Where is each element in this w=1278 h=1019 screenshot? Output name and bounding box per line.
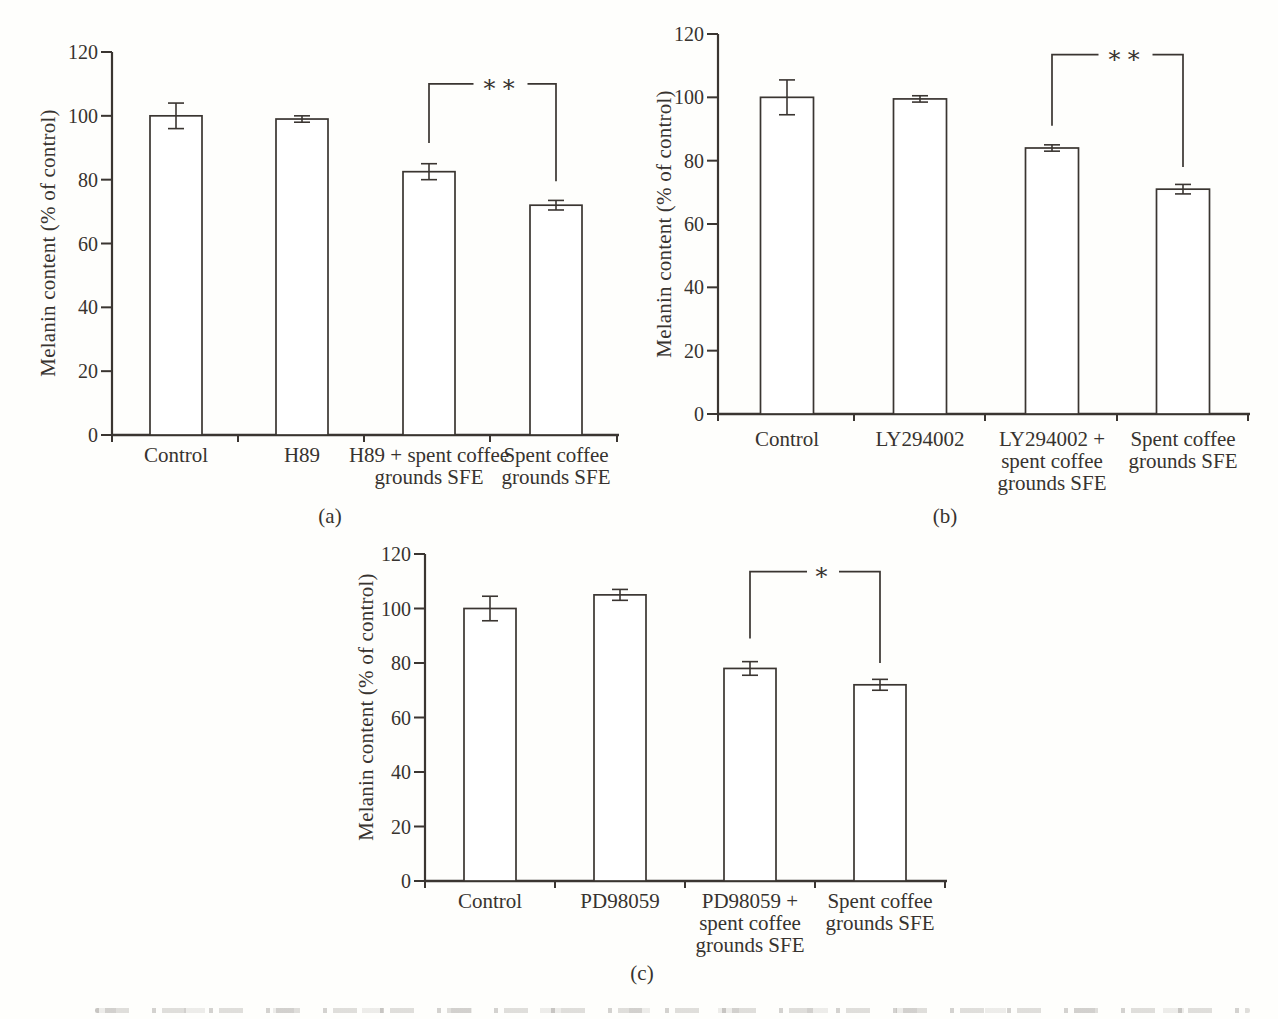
category-label: Control — [144, 443, 208, 467]
y-axis-title-panel-b: Melanin content (% of control) — [651, 9, 677, 439]
chart-plot-area: 020406080100120ControlPD98059PD98059 +sp… — [320, 535, 970, 1019]
chart-plot-area: 020406080100120ControlLY294002LY294002 +… — [650, 0, 1278, 540]
significance-bracket — [750, 572, 807, 639]
y-tick-label: 100 — [381, 598, 411, 620]
category-label: PD98059 — [580, 889, 659, 913]
bar — [854, 685, 906, 881]
y-tick-label: 100 — [674, 86, 704, 108]
y-tick-label: 20 — [78, 360, 98, 382]
significance-stars: ∗ — [813, 558, 832, 586]
significance-bracket — [429, 84, 474, 143]
category-label: PD98059 +spent coffeegrounds SFE — [695, 889, 804, 957]
bar — [894, 99, 947, 414]
y-tick-label: 120 — [381, 543, 411, 565]
y-tick-label: 40 — [391, 761, 411, 783]
bar — [1026, 148, 1079, 414]
panel-label-b: (b) — [933, 504, 958, 529]
y-axis-title-panel-c: Melanin content (% of control) — [353, 492, 379, 922]
y-tick-label: 80 — [78, 169, 98, 191]
panel-a-chart: 020406080100120ControlH89H89 + spent cof… — [0, 0, 650, 540]
bar — [464, 609, 516, 882]
significance-bracket — [839, 572, 880, 663]
bar — [761, 97, 814, 414]
significance-stars: ∗∗ — [1106, 41, 1145, 69]
y-tick-label: 60 — [684, 213, 704, 235]
category-label: LY294002 — [876, 427, 965, 451]
bar — [1157, 189, 1210, 414]
bar — [594, 595, 646, 881]
category-label: H89 — [284, 443, 320, 467]
y-tick-label: 120 — [68, 41, 98, 63]
figure-canvas: 020406080100120ControlH89H89 + spent cof… — [0, 0, 1278, 1019]
y-tick-label: 80 — [391, 652, 411, 674]
panel-c-chart: 020406080100120ControlPD98059PD98059 +sp… — [320, 535, 970, 1019]
y-tick-label: 40 — [684, 276, 704, 298]
significance-stars: ∗∗ — [481, 70, 520, 98]
category-label: Spent coffeegrounds SFE — [501, 443, 610, 489]
y-tick-label: 40 — [78, 296, 98, 318]
y-tick-label: 20 — [684, 340, 704, 362]
significance-bracket — [528, 84, 557, 181]
y-tick-label: 0 — [88, 424, 98, 446]
panel-label-c: (c) — [630, 961, 653, 986]
bar — [276, 119, 328, 435]
category-label: Control — [755, 427, 819, 451]
panel-b-chart: 020406080100120ControlLY294002LY294002 +… — [650, 0, 1278, 540]
category-label: Spent coffeegrounds SFE — [1128, 427, 1237, 473]
y-tick-label: 60 — [391, 707, 411, 729]
significance-bracket — [1153, 55, 1184, 167]
y-tick-label: 120 — [674, 23, 704, 45]
bar — [724, 668, 776, 881]
category-label: LY294002 +spent coffeegrounds SFE — [997, 427, 1106, 495]
panel-label-a: (a) — [318, 504, 341, 529]
y-axis-title-panel-a: Melanin content (% of control) — [35, 28, 61, 458]
chart-plot-area: 020406080100120ControlH89H89 + spent cof… — [0, 0, 650, 540]
y-tick-label: 0 — [694, 403, 704, 425]
clipped-caption-strip — [95, 1008, 1250, 1013]
y-tick-label: 20 — [391, 816, 411, 838]
category-label: Spent coffeegrounds SFE — [825, 889, 934, 935]
y-tick-label: 60 — [78, 233, 98, 255]
y-tick-label: 0 — [401, 870, 411, 892]
category-label: Control — [458, 889, 522, 913]
bar — [403, 172, 455, 435]
y-tick-label: 80 — [684, 150, 704, 172]
bar — [150, 116, 202, 435]
category-label: H89 + spent coffeegrounds SFE — [349, 443, 509, 489]
y-tick-label: 100 — [68, 105, 98, 127]
bar — [530, 205, 582, 435]
significance-bracket — [1052, 55, 1099, 126]
